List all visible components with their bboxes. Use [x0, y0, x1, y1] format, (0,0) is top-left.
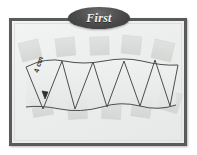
- tape-top-4: [121, 35, 142, 55]
- step-title-badge: First: [68, 7, 130, 29]
- figure-root: 4 cm First: [0, 0, 197, 155]
- illustration-panel: 4 cm: [9, 18, 187, 146]
- tape-top-5: [151, 39, 175, 62]
- tape-top-2: [55, 37, 76, 57]
- step-title-label: First: [86, 12, 112, 24]
- tape-top-3: [90, 37, 110, 56]
- drawing-stage: 4 cm: [12, 21, 190, 149]
- strip-body: [26, 59, 178, 111]
- cone-strip-drawing: [12, 21, 190, 149]
